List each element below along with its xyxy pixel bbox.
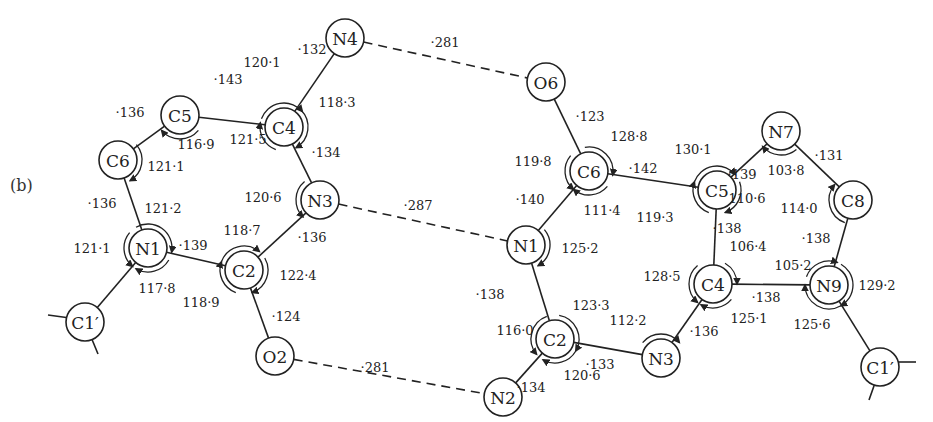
- atom-n3: N3: [642, 339, 680, 377]
- bond-angle-label: 125·1: [730, 311, 767, 326]
- atom-label: C1′: [866, 358, 894, 378]
- bond-length-label: ·123: [576, 109, 605, 124]
- atom-label: N4: [332, 29, 358, 49]
- atom-n4: N4: [326, 19, 364, 57]
- atom-label: O2: [263, 347, 288, 367]
- atom-label: C1′: [71, 313, 99, 333]
- bond-length-label: ·136: [88, 196, 117, 211]
- bond-angle-label: 125·6: [793, 317, 830, 332]
- bond-length-label: ·143: [214, 72, 243, 87]
- atoms: N4C5C4C6N3N1C2C1′O2O6C6C5N7C8N1C4N9C2N3N…: [66, 19, 899, 416]
- bond-angle-label: 120·1: [243, 55, 280, 70]
- atom-o6: O6: [527, 63, 565, 101]
- atom-label: C5: [168, 106, 192, 126]
- bond-length-label: ·132: [298, 42, 327, 57]
- atom-c5: C5: [161, 96, 199, 134]
- atom-c6: C6: [570, 152, 608, 190]
- bond-length-label: ·138: [713, 221, 742, 236]
- atom-n3: N3: [301, 181, 339, 219]
- bond-angle-label: 118·3: [318, 95, 355, 110]
- bond-angle-label: 121·1: [147, 159, 184, 174]
- atom-c8: C8: [834, 181, 872, 219]
- covalent-bond: [133, 126, 164, 149]
- atom-label: N3: [307, 191, 333, 211]
- atom-label: N7: [768, 122, 794, 142]
- bond-angle-label: 110·6: [728, 191, 765, 206]
- atom-c1prime: C1′: [861, 348, 899, 386]
- bond-angle-label: 117·8: [138, 281, 175, 296]
- covalent-bond: [250, 288, 268, 338]
- atom-n9: N9: [810, 266, 848, 304]
- bond-angle-label: 128·8: [610, 129, 647, 144]
- bond-angle-label: 114·0: [780, 201, 817, 216]
- bond-angle-label: 130·1: [674, 142, 711, 157]
- base-pair-diagram: (b) N4C5C4C6N3N1C2C1′O2O6C6C5N7C8N1C4N9C…: [0, 0, 933, 422]
- atom-label: N3: [648, 349, 674, 369]
- covalent-bond: [608, 174, 698, 187]
- atom-c2: C2: [225, 251, 263, 289]
- atom-o2: O2: [256, 337, 294, 375]
- bond-angle-label: 116·9: [177, 137, 214, 152]
- atom-c1prime: C1′: [66, 303, 104, 341]
- atom-label: C8: [841, 191, 865, 211]
- bond-angle-label: 125·2: [561, 241, 598, 256]
- bond-angle-label: 121·5: [229, 132, 266, 147]
- atom-label: C4: [272, 118, 296, 138]
- covalent-bond: [714, 209, 716, 265]
- bond-length-label: ·124: [272, 309, 301, 324]
- bond-length-label: ·138: [802, 231, 831, 246]
- covalent-bond: [732, 284, 810, 285]
- bond-length-label: ·131: [815, 148, 844, 163]
- bond-length-label: ·136: [298, 230, 327, 245]
- covalent-bond: [167, 252, 226, 266]
- atom-label: C5: [705, 181, 729, 201]
- bond-length-label: ·136: [116, 105, 145, 120]
- bond-angle-label: 119·8: [514, 154, 551, 169]
- atom-c4: C4: [265, 108, 303, 146]
- atom-c2: C2: [536, 320, 574, 358]
- covalent-bond: [199, 117, 265, 125]
- substituent-ticks: [48, 315, 916, 400]
- bond-angle-label: 119·3: [636, 210, 673, 225]
- atom-label: C4: [701, 275, 725, 295]
- atom-n1: N1: [129, 229, 167, 267]
- numeric-labels: ·132·143·136·134·136·139·136·124·123·142…: [73, 35, 895, 395]
- bond-angle-label: 103·8: [767, 163, 804, 178]
- bond-length-label: ·138: [752, 290, 781, 305]
- bond-angle-label: 120·6: [244, 190, 281, 205]
- covalent-bond: [839, 301, 870, 351]
- bond-length-label: ·136: [690, 324, 719, 339]
- bond-angle-label: 129·2: [858, 278, 895, 293]
- bond-length-label: ·287: [404, 198, 433, 213]
- bond-length-label: ·142: [629, 161, 658, 176]
- bond-angle-label: 123·3: [572, 298, 609, 313]
- covalent-bond: [97, 262, 135, 307]
- atom-label: N2: [490, 388, 516, 408]
- bond-angle-label: 112·2: [609, 313, 646, 328]
- covalent-bond: [292, 144, 311, 183]
- atom-n1: N1: [507, 226, 545, 264]
- atom-c6: C6: [99, 141, 137, 179]
- covalent-bond: [834, 218, 848, 266]
- bond-angle-label: 122·4: [279, 268, 316, 283]
- bond-length-label: ·138: [476, 287, 505, 302]
- bond-angle-label: 118·7: [223, 223, 260, 238]
- atom-label: C2: [232, 261, 256, 281]
- bond-angle-label: 116·0: [496, 323, 533, 338]
- covalent-bond: [532, 263, 550, 321]
- bond-angle-label: 118·9: [182, 295, 219, 310]
- bond-angle-label: 128·5: [643, 269, 680, 284]
- bond-angle-label: 111·4: [583, 203, 620, 218]
- atom-label: O6: [534, 73, 559, 93]
- atom-label: N9: [816, 276, 842, 296]
- bond-angle-label: 105·2: [774, 258, 811, 273]
- panel-label: (b): [10, 176, 33, 195]
- bond-length-label: ·281: [361, 360, 390, 375]
- atom-label: C2: [543, 330, 567, 350]
- bond-angle-label: 121·1: [73, 241, 110, 256]
- covalent-bond: [574, 342, 643, 354]
- atom-label: N1: [135, 239, 161, 259]
- covalent-bonds: [97, 54, 870, 383]
- bond-length-label: ·134: [312, 145, 341, 160]
- bond-angle-label: 121·2: [144, 201, 181, 216]
